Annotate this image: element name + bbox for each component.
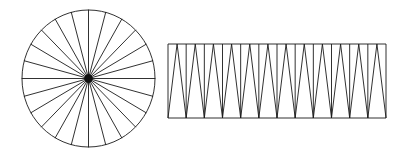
background-rect xyxy=(0,0,404,163)
geometry-diagram xyxy=(0,0,404,163)
sectored-circle xyxy=(22,10,155,147)
circle-center-hub xyxy=(84,74,92,82)
figure-canvas xyxy=(0,0,404,163)
